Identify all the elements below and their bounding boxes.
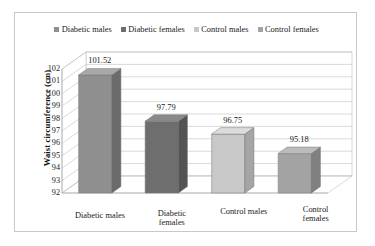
chart-graphics xyxy=(15,13,358,233)
category-label: Control males xyxy=(220,207,267,217)
category-label: Diabetic females xyxy=(158,209,186,228)
category-label: Diabetic males xyxy=(75,211,125,221)
figure-canvas: Diabetic males Diabetic females Control … xyxy=(0,0,375,246)
bar-value-label: 97.79 xyxy=(157,104,176,112)
category-label: Control females xyxy=(303,205,329,224)
chart-frame: Diabetic males Diabetic females Control … xyxy=(14,12,357,232)
bar-value-label: 95.18 xyxy=(290,136,309,144)
plot-area: Waist circumference (cm) 102101100999897… xyxy=(15,13,358,233)
bar-value-label: 101.52 xyxy=(88,57,111,65)
bar-value-label: 96.75 xyxy=(223,117,242,125)
